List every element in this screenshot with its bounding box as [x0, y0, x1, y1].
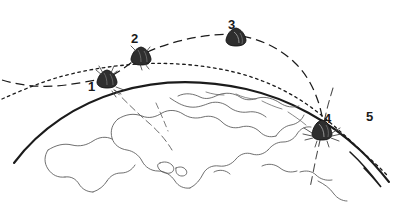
capsule-icon-stage-2	[131, 46, 151, 70]
sightline-stage-1	[107, 82, 172, 150]
stage-label-4: 4	[324, 112, 331, 125]
stage-label-5: 5	[366, 110, 373, 123]
capsule-descending-icon-stage-4	[303, 120, 341, 147]
stage-label-2: 2	[131, 32, 138, 45]
figure-canvas	[0, 0, 407, 211]
trajectory-figure: 1 2 3 4 5	[0, 0, 407, 211]
stage-label-1: 1	[88, 80, 95, 93]
stage-label-3: 3	[228, 18, 235, 31]
dashed-trajectory	[2, 34, 324, 129]
